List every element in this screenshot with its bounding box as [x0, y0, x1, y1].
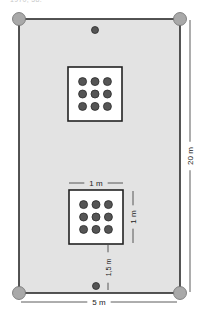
dimension-label: 1 m [89, 179, 103, 188]
corner-post-icon [13, 13, 26, 26]
plant-dot-icon [93, 283, 100, 290]
plant-dot-icon [80, 201, 88, 209]
corner-post-icon [174, 287, 187, 300]
plant-dot-icon [79, 90, 87, 98]
plant-dot-icon [104, 225, 112, 233]
dimension-label: 5 m [92, 298, 106, 307]
plant-dot-icon [79, 102, 87, 110]
plant-dot-icon [80, 213, 88, 221]
plant-dot-icon [104, 201, 112, 209]
plant-dot-icon [92, 201, 100, 209]
plant-dot-icon [91, 102, 99, 110]
diagram-canvas: 5 m20 m1 m1 m1,5 m [0, 0, 204, 311]
plant-dot-icon [103, 102, 111, 110]
corner-post-icon [174, 13, 187, 26]
dimension-label: 1,5 m [105, 259, 112, 277]
plant-dot-icon [103, 90, 111, 98]
plant-dot-icon [104, 213, 112, 221]
corner-post-icon [13, 287, 26, 300]
plant-dot-icon [103, 78, 111, 86]
dimension-label: 1 m [129, 210, 138, 224]
field-rectangle-group [19, 19, 180, 293]
plant-dot-icon [91, 90, 99, 98]
field-rectangle [19, 19, 180, 293]
lower-plot [69, 190, 123, 244]
plant-dot-icon [92, 213, 100, 221]
upper-plot [68, 67, 122, 121]
plant-dot-icon [79, 78, 87, 86]
source-caption: 1970, 58. [10, 0, 42, 3]
dimension-label: 20 m [186, 147, 195, 165]
plant-dot-icon [92, 27, 99, 34]
plot-layout-diagram: 1970, 58. 5 m20 m1 m1 m1,5 m [0, 0, 204, 311]
dimension-height-20m: 20 m [186, 20, 195, 292]
plant-dot-icon [91, 78, 99, 86]
plant-dot-icon [80, 225, 88, 233]
plant-dot-icon [92, 225, 100, 233]
dimension-width-5m: 5 m [21, 298, 177, 307]
